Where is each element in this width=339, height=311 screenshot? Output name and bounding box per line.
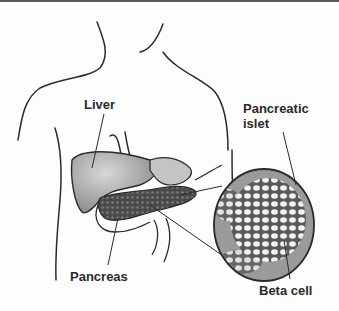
label-beta-cell: Beta cell	[259, 284, 312, 298]
label-islet: islet	[243, 117, 269, 131]
label-liver: Liver	[84, 98, 115, 112]
label-pancreas: Pancreas	[70, 270, 128, 284]
pancreas-pointer	[108, 218, 118, 265]
anatomy-illustration	[0, 0, 339, 311]
stomach-shape	[150, 158, 191, 185]
magnified-islet	[210, 165, 320, 285]
label-pancreatic: Pancreatic	[243, 102, 309, 116]
diagram-frame: Liver Pancreatic islet Pancreas Beta cel…	[0, 0, 339, 311]
body-outline	[18, 22, 233, 280]
